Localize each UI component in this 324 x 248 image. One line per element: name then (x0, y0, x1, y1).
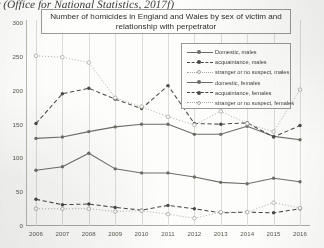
legend-item: acquaintance, females (187, 88, 288, 98)
x-axis-tick-label: 2007 (55, 230, 69, 237)
x-axis-tick-label: 2013 (214, 230, 228, 237)
data-point (61, 203, 64, 206)
data-point (34, 168, 37, 171)
data-point (87, 87, 90, 90)
data-series (34, 152, 301, 186)
data-point (113, 96, 117, 100)
y-axis-tick-label: 250 (12, 52, 23, 59)
chart-figure: Number of homicides in England and Wales… (0, 8, 324, 248)
legend-item-label: stranger or no suspect, males (215, 69, 289, 75)
legend-item: acquaintance, males (187, 57, 288, 67)
legend-item: domestic, females (187, 78, 288, 88)
data-point (298, 138, 301, 141)
data-point (87, 61, 91, 65)
x-axis-tick-label: 2015 (267, 230, 281, 237)
data-point (34, 137, 37, 140)
data-point (193, 216, 197, 220)
data-point (246, 182, 249, 185)
legend-item-label: Domestic, males (215, 49, 257, 55)
data-point (298, 124, 301, 127)
x-axis-tick-label: 2012 (187, 230, 201, 237)
data-point (298, 206, 302, 210)
data-point (61, 207, 65, 211)
data-point (166, 115, 170, 119)
x-axis-tick-label: 2010 (135, 230, 149, 237)
data-point (87, 152, 90, 155)
data-point (114, 167, 117, 170)
legend-item-label: domestic, females (215, 80, 260, 86)
data-point (245, 210, 249, 214)
data-point (166, 212, 170, 216)
data-point (166, 171, 169, 174)
data-point (219, 122, 222, 125)
data-point (219, 110, 223, 114)
data-point (140, 171, 143, 174)
data-point (61, 165, 64, 168)
x-axis-tick-label: 2006 (29, 230, 43, 237)
data-point (34, 122, 37, 125)
legend-swatch-icon (187, 68, 213, 77)
data-point (87, 130, 90, 133)
y-axis-tick-label: 50 (16, 188, 23, 195)
data-point (193, 133, 196, 136)
data-point (298, 88, 302, 92)
y-axis-tick-label: 0 (19, 222, 23, 229)
legend-swatch-icon (187, 48, 213, 57)
data-point (34, 54, 38, 58)
legend-swatch-icon (187, 88, 213, 97)
data-point (193, 175, 196, 178)
data-series (34, 122, 301, 141)
legend-item-label: acquaintance, females (215, 90, 271, 96)
data-point (219, 210, 223, 214)
data-point (166, 122, 169, 125)
data-point (272, 135, 275, 138)
data-point (272, 201, 276, 205)
data-point (245, 122, 249, 126)
data-point (114, 206, 117, 209)
x-axis-tick-label: 2011 (161, 230, 175, 237)
data-point (272, 211, 275, 214)
data-point (166, 84, 169, 87)
data-point (140, 122, 143, 125)
x-axis-tick-label: 2014 (240, 230, 254, 237)
data-point (34, 198, 37, 201)
data-point (219, 133, 222, 136)
legend-item: stranger or no suspect, males (187, 67, 288, 77)
data-point (140, 105, 144, 109)
data-point (34, 207, 38, 211)
legend-swatch-icon (187, 78, 213, 87)
data-point (166, 204, 169, 207)
legend-item-label: stranger or no suspect, females (215, 100, 294, 106)
chart-title-box: Number of homicides in England and Wales… (41, 9, 291, 34)
data-point (140, 209, 144, 213)
y-axis-tick-label: 200 (12, 86, 23, 93)
legend-swatch-icon (187, 58, 213, 67)
data-point (113, 210, 117, 214)
legend-item: stranger or no suspect, females (187, 98, 288, 108)
data-point (193, 207, 196, 210)
data-point (87, 202, 90, 205)
y-axis-tick-label: 150 (12, 120, 23, 127)
x-axis-tick-label: 2009 (108, 230, 122, 237)
data-point (87, 207, 91, 211)
legend: Domestic, malesacquaintance, malesstrang… (181, 43, 291, 109)
data-point (219, 181, 222, 184)
y-axis-tick-label: 100 (12, 154, 23, 161)
data-point (61, 55, 65, 59)
data-point (193, 123, 197, 127)
page-title: Number of homicides in England and Wales… (46, 12, 286, 33)
x-axis-tick-label: 2016 (293, 230, 307, 237)
y-axis-tick-label: 300 (12, 19, 23, 26)
legend-swatch-icon (187, 98, 213, 107)
data-point (114, 125, 117, 128)
x-axis-tick-label: 2008 (82, 230, 96, 237)
data-point (298, 180, 301, 183)
data-point (272, 130, 276, 134)
data-point (272, 177, 275, 180)
legend-item: Domestic, males (187, 47, 288, 57)
data-point (61, 92, 64, 95)
data-point (61, 135, 64, 138)
legend-item-label: acquaintance, males (215, 59, 267, 65)
